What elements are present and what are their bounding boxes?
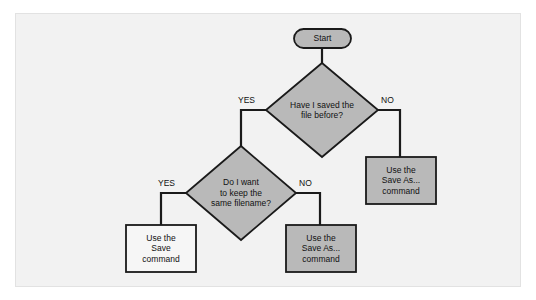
- node-decision-saved-before-label: Have I saved the file before?: [275, 95, 369, 125]
- node-process-save-as-middle-label: Use the Save As... command: [286, 225, 356, 272]
- branch-label-same-filename-yes: YES: [158, 178, 175, 188]
- branch-label-saved-before-no: NO: [381, 95, 394, 105]
- edge-decision2-yes: [161, 193, 186, 225]
- edge-decision2-no: [296, 193, 320, 225]
- figure-stage: Start Have I saved the file before? Do I…: [0, 0, 536, 300]
- branch-label-saved-before-yes: YES: [238, 95, 255, 105]
- node-start-label: Start: [294, 29, 351, 48]
- branch-label-same-filename-no: NO: [299, 178, 312, 188]
- edge-decision1-yes: [241, 110, 266, 146]
- flowchart-graphics: [0, 0, 536, 300]
- edge-decision1-no: [378, 110, 400, 157]
- node-process-save-as-right-label: Use the Save As... command: [366, 157, 436, 204]
- node-decision-same-filename-label: Do I want to keep the same filename?: [196, 173, 286, 213]
- node-process-save-label: Use the Save command: [126, 225, 196, 272]
